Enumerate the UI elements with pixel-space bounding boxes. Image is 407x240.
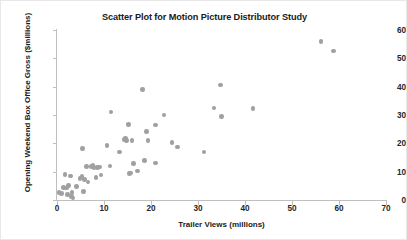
data-point — [218, 83, 223, 88]
data-point — [71, 196, 76, 201]
data-point — [130, 138, 135, 143]
data-point — [109, 110, 114, 115]
data-point — [81, 189, 86, 194]
x-tick-label: 0 — [39, 204, 75, 213]
x-tick-label: 40 — [227, 204, 263, 213]
data-point — [66, 183, 71, 188]
data-point — [140, 87, 145, 92]
data-point — [153, 123, 158, 128]
data-point — [251, 106, 256, 111]
y-axis-title: Opening Weekend Box Office Gross ($milli… — [23, 8, 32, 198]
data-point — [146, 138, 151, 143]
data-point — [319, 39, 324, 44]
x-tick-label: 30 — [180, 204, 216, 213]
data-point — [99, 173, 104, 178]
x-tick-label: 60 — [321, 204, 357, 213]
data-point — [117, 150, 122, 155]
data-point — [162, 113, 167, 118]
data-point — [212, 106, 217, 111]
data-point — [108, 164, 113, 169]
data-point — [80, 146, 85, 151]
data-point — [142, 158, 147, 163]
plot-area — [57, 30, 386, 200]
data-point — [124, 138, 129, 143]
data-point — [144, 129, 149, 134]
x-axis-title: Trailer Views (millions) — [57, 220, 386, 229]
data-point — [131, 161, 136, 166]
data-point — [219, 114, 224, 119]
data-point — [170, 140, 175, 145]
data-point — [74, 184, 79, 189]
x-axis-line — [56, 200, 387, 201]
data-point — [69, 174, 74, 179]
data-point — [86, 180, 91, 185]
scatter-chart-figure: Scatter Plot for Motion Picture Distribu… — [0, 0, 407, 240]
data-point — [105, 143, 110, 148]
data-point — [84, 164, 89, 169]
x-tick-label: 20 — [133, 204, 169, 213]
x-tick-label: 10 — [86, 204, 122, 213]
data-point — [97, 165, 102, 170]
data-point — [63, 172, 68, 177]
chart-title: Scatter Plot for Motion Picture Distribu… — [1, 12, 407, 22]
data-point — [135, 169, 140, 174]
data-point — [94, 175, 99, 180]
data-point — [331, 49, 336, 54]
x-tick-label: 70 — [368, 204, 404, 213]
data-point — [128, 171, 133, 176]
data-point — [202, 150, 207, 155]
data-point — [59, 191, 64, 196]
x-tick-label: 50 — [274, 204, 310, 213]
data-point — [175, 145, 180, 150]
data-point — [153, 161, 158, 166]
data-point — [126, 122, 131, 127]
